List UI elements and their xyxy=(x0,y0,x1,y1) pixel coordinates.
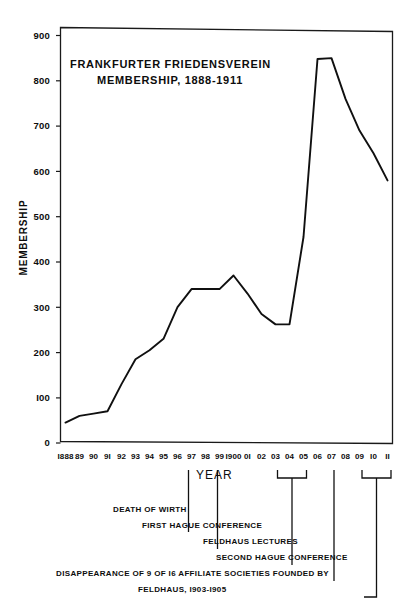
x-tick-label: 06 xyxy=(313,452,322,461)
plot-area xyxy=(0,0,416,606)
y-tick-label: 800 xyxy=(16,75,50,86)
x-tick-label: 08 xyxy=(341,452,350,461)
x-tick-label: 96 xyxy=(173,452,182,461)
x-tick-label: 93 xyxy=(131,452,140,461)
y-axis-title: MEMBERSHIP xyxy=(18,193,29,283)
x-tick-label: 9I xyxy=(104,452,111,461)
x-tick-label: 03 xyxy=(271,452,280,461)
x-tick-label: I900 xyxy=(226,452,242,461)
y-tick-label: 300 xyxy=(16,302,50,313)
y-tick-label: 700 xyxy=(16,120,50,131)
x-tick-label: 99 xyxy=(215,452,224,461)
membership-line xyxy=(66,58,388,422)
x-tick-label: 97 xyxy=(187,452,196,461)
leader-disappearance xyxy=(364,478,377,597)
x-tick-label: 05 xyxy=(299,452,308,461)
y-tick-label: 600 xyxy=(16,166,50,177)
y-tick-label: 200 xyxy=(16,347,50,358)
y-tick-marks xyxy=(56,36,61,444)
annotation-feldhaus-lectures: FELDHAUS LECTURES xyxy=(203,537,298,546)
x-axis-title: YEAR xyxy=(196,468,233,482)
y-tick-label: I00 xyxy=(16,392,50,403)
x-tick-label: 90 xyxy=(89,452,98,461)
chart-figure: 900 800 700 600 500 400 300 200 I00 0 ME… xyxy=(0,0,416,606)
x-tick-label: 92 xyxy=(117,452,126,461)
annotation-death-of-wirth: DEATH OF WIRTH xyxy=(113,505,187,514)
bracket-disappearance xyxy=(362,470,391,478)
chart-subtitle: MEMBERSHIP, 1888-1911 xyxy=(70,74,270,86)
chart-title: FRANKFURTER FRIEDENSVEREIN xyxy=(70,58,270,70)
x-tick-label: 0I xyxy=(244,452,251,461)
x-tick-label: I0 xyxy=(370,452,377,461)
x-tick-label: II xyxy=(385,452,390,461)
x-tick-label: 95 xyxy=(159,452,168,461)
x-tick-label: I888 xyxy=(58,452,74,461)
annotation-disappearance-line2: FELDHAUS, I903-I905 xyxy=(138,585,226,594)
annotation-second-hague-conference: SECOND HAGUE CONFERENCE xyxy=(216,553,348,562)
x-tick-label: 98 xyxy=(201,452,210,461)
x-tick-label: 07 xyxy=(327,452,336,461)
x-tick-label: 89 xyxy=(75,452,84,461)
y-tick-label: 900 xyxy=(16,30,50,41)
x-tick-label: 02 xyxy=(257,452,266,461)
annotation-first-hague-conference: FIRST HAGUE CONFERENCE xyxy=(142,521,262,530)
x-tick-label: 94 xyxy=(145,452,154,461)
annotation-disappearance: DISAPPEARANCE OF 9 OF I6 AFFILIATE SOCIE… xyxy=(56,569,329,578)
y-tick-label: 0 xyxy=(16,437,50,448)
x-tick-label: 09 xyxy=(355,452,364,461)
bracket-feldhaus-lectures xyxy=(278,470,307,478)
x-tick-label: 04 xyxy=(285,452,294,461)
